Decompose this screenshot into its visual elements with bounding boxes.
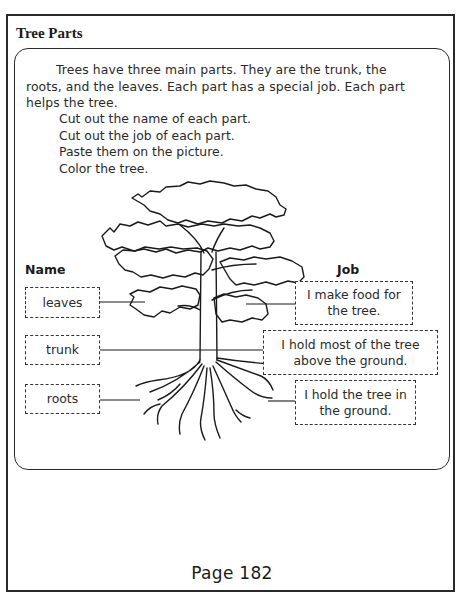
job-column-label: Job	[337, 262, 359, 277]
job-box-roots[interactable]: I hold the tree in the ground.	[295, 380, 416, 425]
job-box-trunk[interactable]: I hold most of the tree above the ground…	[263, 330, 438, 375]
page-number: Page 182	[0, 563, 464, 583]
name-text: leaves	[42, 295, 82, 311]
name-text: trunk	[46, 342, 79, 358]
leaves-crown-top	[132, 181, 286, 224]
leaves-tier-4-right	[214, 294, 268, 322]
job-text: I hold most of the tree above the ground…	[270, 337, 431, 369]
job-text: I hold the tree in the ground.	[302, 387, 409, 419]
name-box-leaves[interactable]: leaves	[25, 287, 100, 318]
name-box-trunk[interactable]: trunk	[25, 335, 100, 365]
name-box-roots[interactable]: roots	[25, 384, 100, 414]
name-text: roots	[47, 391, 78, 407]
job-text: I make food for the tree.	[306, 287, 402, 319]
leaves-tier-3-right	[220, 257, 304, 285]
job-box-leaves[interactable]: I make food for the tree.	[295, 281, 413, 325]
name-column-label: Name	[25, 262, 65, 277]
